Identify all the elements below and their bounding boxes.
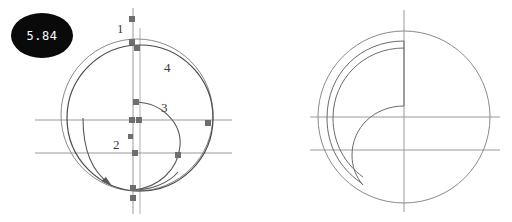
marker-square bbox=[133, 99, 139, 105]
figure-sheet: 5.84 1 4 3 2 5 bbox=[0, 0, 512, 222]
construction-axes-right bbox=[310, 10, 500, 212]
marker-square bbox=[129, 16, 135, 22]
crescent-outer-edge bbox=[327, 41, 404, 182]
marker-square bbox=[132, 150, 138, 156]
rotation-arc bbox=[83, 118, 110, 184]
crescent-inner-offset bbox=[333, 48, 404, 177]
marker-square bbox=[205, 120, 211, 126]
rotation-arrow-left bbox=[83, 118, 112, 186]
outer-circle-outline bbox=[61, 39, 213, 191]
figure-panel-right: 5.85 bbox=[256, 0, 512, 222]
marker-square bbox=[128, 134, 133, 139]
marker-square bbox=[130, 185, 136, 191]
point-label-4: 4 bbox=[164, 61, 171, 74]
point-label-1: 1 bbox=[117, 22, 124, 35]
marker-square bbox=[130, 195, 136, 201]
outer-circle-left bbox=[61, 39, 213, 191]
figure-number-badge-left: 5.84 bbox=[11, 13, 73, 58]
marker-square bbox=[175, 152, 181, 158]
crescent-inner-edge bbox=[352, 106, 404, 185]
figure-number-text: 5.84 bbox=[27, 30, 58, 42]
crescent-shape-right bbox=[327, 41, 404, 185]
point-label-3: 3 bbox=[161, 101, 168, 114]
marker-square bbox=[136, 117, 142, 123]
marker-square bbox=[129, 117, 135, 123]
marker-square bbox=[134, 45, 140, 51]
geometry-drawing-right bbox=[256, 0, 512, 222]
point-label-2: 2 bbox=[113, 138, 120, 151]
figure-panel-left: 5.84 1 4 3 2 bbox=[0, 0, 256, 222]
marker-square bbox=[129, 39, 135, 45]
